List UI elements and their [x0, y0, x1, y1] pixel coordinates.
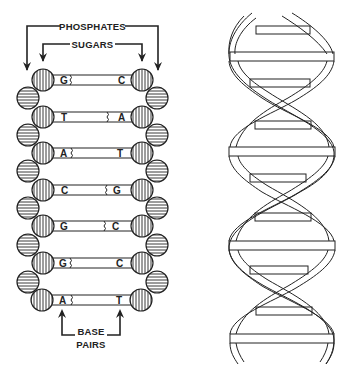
- base-right: C: [116, 258, 123, 269]
- phosphates-label: PHOSPHATES: [59, 21, 126, 32]
- rung: G C: [32, 215, 153, 237]
- helix-strand: [229, 156, 334, 241]
- base-right: C: [118, 75, 125, 86]
- phosphate-icon: [146, 124, 168, 146]
- base-right: A: [118, 112, 125, 123]
- sugar-icon: [31, 289, 53, 311]
- helix-base-pair-bar: [230, 334, 334, 343]
- phosphate-icon: [17, 271, 39, 293]
- sugar-icon: [32, 69, 54, 91]
- helix-strand: [236, 343, 244, 362]
- rung: G C: [32, 69, 153, 91]
- sugar-icon: [131, 252, 153, 274]
- sugar-icon: [130, 289, 152, 311]
- helix-base-pair-bar: [255, 213, 311, 221]
- helix-base-pair-bar: [255, 121, 311, 129]
- phosphate-icon: [146, 271, 168, 293]
- helix-base-pair-bar: [256, 307, 312, 315]
- sugars-label: SUGARS: [72, 39, 114, 50]
- sugar-icon: [32, 179, 54, 201]
- base-right: G: [113, 185, 121, 196]
- phosphate-icon: [17, 197, 39, 219]
- helix-strand: [320, 343, 328, 362]
- sugar-icon: [32, 252, 54, 274]
- helix-base-pair-bar: [229, 241, 335, 250]
- phosphate-icon: [146, 234, 168, 256]
- helix-base-pair-bar: [250, 174, 306, 182]
- helix-base-pair-bar: [250, 266, 308, 274]
- helix-strand: [238, 156, 329, 241]
- helix-strand: [238, 61, 329, 147]
- pairs-label: PAIRS: [76, 339, 105, 350]
- helix-strand: [229, 250, 334, 334]
- sugar-icon: [131, 142, 153, 164]
- phosphate-icon: [17, 234, 39, 256]
- sugar-icon: [32, 215, 54, 237]
- phosphate-icon: [17, 160, 39, 182]
- phosphate-icon: [146, 160, 168, 182]
- base-left: G: [60, 221, 68, 232]
- phosphate-icon: [146, 197, 168, 219]
- helix-base-pair-bar: [230, 52, 334, 61]
- ladder-model: PHOSPHATES SUGARS: [17, 21, 168, 351]
- sugars-callout: SUGARS: [39, 39, 146, 63]
- base-left: G: [60, 75, 68, 86]
- rung: G C: [32, 252, 153, 274]
- base-left: A: [60, 148, 67, 159]
- base-left: A: [59, 295, 66, 306]
- rung: C G: [32, 179, 153, 201]
- double-helix: [229, 13, 343, 364]
- rung: A T: [32, 142, 153, 164]
- sugar-icon: [131, 69, 153, 91]
- base-right: C: [112, 221, 119, 232]
- base-left: G: [59, 258, 67, 269]
- phosphate-icon: [17, 124, 39, 146]
- helix-strand: [229, 156, 335, 241]
- base-right: T: [116, 295, 122, 306]
- helix-strand: [238, 250, 329, 334]
- helix-strand: [236, 156, 328, 241]
- helix-strand: [236, 250, 328, 334]
- phosphate-icon: [146, 87, 168, 109]
- base-left: T: [61, 112, 67, 123]
- base-left: C: [61, 185, 68, 196]
- dna-diagram: PHOSPHATES SUGARS: [0, 0, 345, 372]
- sugar-icon: [32, 106, 54, 128]
- sugar-icon: [131, 215, 153, 237]
- rung: T A: [32, 106, 153, 128]
- sugar-icon: [131, 179, 153, 201]
- rung: A T: [31, 289, 152, 311]
- phosphate-icon: [17, 87, 39, 109]
- sugar-icon: [131, 106, 153, 128]
- base-label: BASE: [77, 326, 104, 337]
- helix-strand: [236, 61, 327, 147]
- base-right: T: [117, 148, 123, 159]
- base-pairs-callout: BASE PAIRS: [58, 309, 124, 350]
- sugar-icon: [32, 142, 54, 164]
- helix-base-pair-bar: [229, 147, 335, 156]
